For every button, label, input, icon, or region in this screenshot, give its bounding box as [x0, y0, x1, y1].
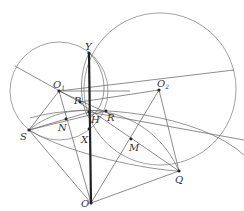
label-o1: O1 [53, 79, 65, 91]
label-o: O [81, 198, 89, 209]
line-o1-s [29, 91, 59, 130]
point-o [89, 201, 92, 204]
label-n: N [57, 122, 68, 133]
label-h: H [90, 114, 100, 125]
label-o2: O2 [157, 78, 169, 90]
line-o2-o [91, 90, 159, 203]
line-o1-o2 [59, 70, 234, 91]
label-m: M [128, 142, 140, 153]
geometry-diagram: Y O1 O2 P H R N S X M Q O [0, 0, 244, 211]
line-o2-p [80, 90, 159, 102]
line-diameter-o1 [15, 66, 83, 104]
label-p: P [73, 95, 81, 106]
point-s [27, 128, 30, 131]
point-n [65, 118, 68, 121]
label-s: S [20, 131, 27, 142]
label-r: R [106, 112, 115, 123]
point-h [88, 111, 91, 114]
line-q-o [91, 171, 179, 203]
label-y: Y [85, 41, 93, 52]
label-q: Q [175, 174, 183, 185]
diagram-svg: Y O1 O2 P H R N S X M Q O [0, 0, 244, 211]
point-q [177, 169, 180, 172]
point-x [88, 128, 91, 131]
label-x: X [80, 134, 89, 145]
point-m [130, 138, 133, 141]
